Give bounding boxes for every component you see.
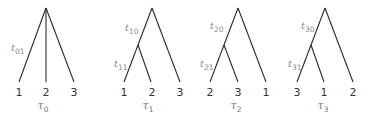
edge-root-leaf3 <box>152 8 180 82</box>
tree-label-tau0: τ0 <box>38 99 49 114</box>
tree-tau3: t30 t31 3 1 2 τ3 <box>288 8 357 114</box>
edge-internal-leaf2 <box>138 45 151 82</box>
branch-label-t10: t10 <box>125 22 139 36</box>
tree-tau1: t10 t11 1 2 3 τ1 <box>114 8 184 114</box>
leaf-label: 3 <box>235 86 242 99</box>
tree-tau0: t01 1 2 3 τ0 <box>11 8 78 114</box>
leaf-label: 2 <box>207 86 214 99</box>
edge-root-leaf1 <box>19 8 46 82</box>
branch-label-t31: t31 <box>288 58 302 72</box>
leaf-label: 1 <box>121 86 128 99</box>
leaf-label: 1 <box>263 86 270 99</box>
leaf-label: 3 <box>177 86 184 99</box>
edge-internal-leaf1 <box>311 45 324 82</box>
tree-label-tau3: τ3 <box>318 99 329 114</box>
branch-label-t20: t20 <box>210 20 224 34</box>
tree-tau2: t20 t21 2 3 1 τ2 <box>200 8 270 114</box>
branch-label-t01: t01 <box>11 42 25 56</box>
leaf-label: 3 <box>71 86 78 99</box>
edge-root-leaf1 <box>238 8 266 82</box>
edge-root-leaf2 <box>325 8 353 82</box>
leaf-label: 1 <box>16 86 23 99</box>
branch-label-t11: t11 <box>114 58 128 72</box>
tree-label-tau2: τ2 <box>231 99 242 114</box>
leaf-label: 2 <box>43 86 50 99</box>
branch-label-t21: t21 <box>200 58 214 72</box>
leaf-label: 2 <box>350 86 357 99</box>
leaf-label: 2 <box>149 86 156 99</box>
leaf-label: 1 <box>321 86 328 99</box>
leaf-label: 3 <box>294 86 301 99</box>
edge-internal-leaf3 <box>224 45 238 82</box>
tree-topologies-diagram: t01 1 2 3 τ0 t10 t11 1 2 3 τ1 t20 t21 2 … <box>0 0 372 116</box>
edge-root-leaf3 <box>46 8 74 82</box>
branch-label-t30: t30 <box>301 20 315 34</box>
tree-label-tau1: τ1 <box>143 99 154 114</box>
